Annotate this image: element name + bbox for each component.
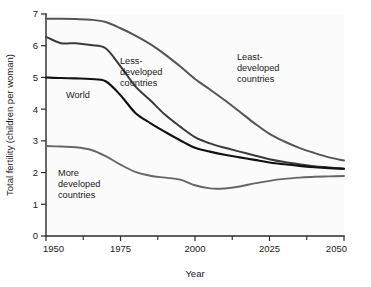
y-tick-label-5: 5 <box>33 72 38 83</box>
y-tick-label-6: 6 <box>33 40 38 51</box>
y-axis-ticks <box>41 14 46 236</box>
y-tick-label-2: 2 <box>33 167 38 178</box>
y-tick-label-1: 1 <box>33 199 38 210</box>
fertility-line-chart: 01234567 19501975200020252050 Year Total… <box>0 0 371 287</box>
annotation-less-developed-line3: countries <box>120 78 158 88</box>
y-tick-label-3: 3 <box>33 135 38 146</box>
y-tick-label-7: 7 <box>33 8 38 19</box>
annotation-world: World <box>66 90 90 100</box>
annotation-less-developed-line2: developed <box>120 67 162 77</box>
annotation-more-developed-line1: More <box>58 168 79 178</box>
annotation-less-developed-line1: Less- <box>120 56 142 66</box>
x-tick-label-1975: 1975 <box>110 243 131 254</box>
y-axis-title: Total fertility (children per woman) <box>4 54 15 196</box>
x-axis-ticks <box>46 236 344 241</box>
plot-background <box>46 14 344 236</box>
x-tick-label-2050: 2050 <box>326 243 347 254</box>
x-axis-title: Year <box>185 268 204 279</box>
y-axis-tick-labels: 01234567 <box>33 8 38 241</box>
y-tick-label-4: 4 <box>33 104 38 115</box>
figure-container: 01234567 19501975200020252050 Year Total… <box>0 0 371 287</box>
x-tick-label-2000: 2000 <box>184 243 205 254</box>
annotation-more-developed-line3: countries <box>58 190 96 200</box>
annotation-world-label: World <box>66 90 90 100</box>
caption-fragment <box>6 270 9 277</box>
annotation-least-developed-line2: developed <box>237 63 279 73</box>
annotation-least-developed-line3: countries <box>237 74 275 84</box>
x-tick-label-1950: 1950 <box>43 243 64 254</box>
x-axis-tick-labels: 19501975200020252050 <box>43 243 347 254</box>
annotation-more-developed-line2: developed <box>58 179 100 189</box>
x-tick-label-2025: 2025 <box>259 243 280 254</box>
y-tick-label-0: 0 <box>33 230 38 241</box>
annotation-least-developed-line1: Least- <box>237 52 263 62</box>
